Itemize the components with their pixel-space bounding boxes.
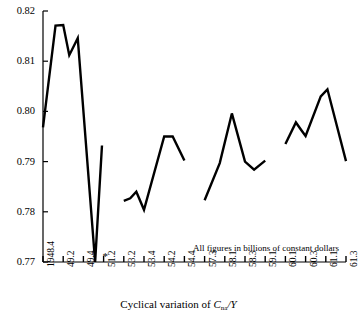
chart-annotation-note: All figures in billions of constant doll…: [193, 243, 339, 253]
x-axis-tick-label: 51.2: [108, 250, 118, 267]
x-axis-title: Cyclical variation of Cna/Y: [0, 298, 357, 312]
data-line-segment-3: [205, 113, 266, 200]
x-axis-tick-label: 49.4: [87, 250, 97, 267]
axes-lines: [43, 11, 346, 262]
x-axis-title-symbol: C: [214, 298, 221, 310]
y-axis-tick-label: 0.80: [5, 106, 35, 117]
x-axis-tick-label: 53.4: [148, 250, 158, 267]
y-axis-tick-label: 0.77: [5, 257, 35, 268]
x-axis-title-suffix: /Y: [227, 298, 236, 310]
x-axis-tick-label: 53.2: [128, 250, 138, 267]
data-line-segment-2: [124, 137, 185, 210]
x-axis-tick-label: 54.2: [168, 250, 178, 267]
y-axis-tick-label: 0.81: [5, 56, 35, 67]
x-axis-tick-label: 1948.4: [47, 241, 57, 267]
y-axis-tick-label: 0.82: [5, 6, 35, 17]
y-axis-tick-label: 0.79: [5, 157, 35, 168]
data-lines: [43, 25, 346, 262]
data-line-segment-1: [43, 25, 102, 262]
y-axis-tick-label: 0.78: [5, 207, 35, 218]
data-line-segment-4: [285, 89, 346, 161]
axis-ticks: [43, 11, 346, 262]
x-axis-tick-label: 61.3: [350, 250, 360, 267]
x-axis-tick-label: 49.2: [67, 250, 77, 267]
x-axis-title-prefix: Cyclical variation of: [120, 298, 213, 310]
asterisk-marker: *: [103, 251, 109, 262]
